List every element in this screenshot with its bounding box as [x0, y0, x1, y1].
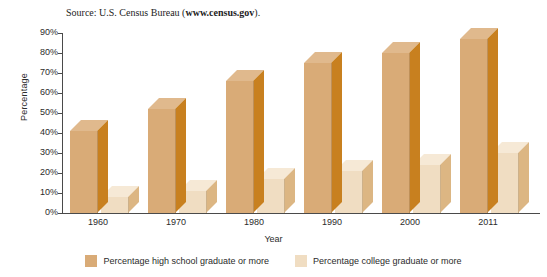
bar-face-front	[70, 131, 98, 213]
bar-face-side	[175, 98, 186, 213]
bar-highschool-1990	[304, 52, 342, 213]
x-tick-label-1960: 1960	[63, 217, 133, 227]
bar-face-front	[226, 81, 254, 213]
y-tick-mark	[58, 73, 63, 74]
bar-highschool-1970	[148, 98, 186, 213]
bar-face-side	[97, 120, 108, 213]
x-tick-label-1970: 1970	[141, 217, 211, 227]
legend-label: Percentage college graduate or more	[313, 256, 462, 266]
y-tick-mark	[58, 33, 63, 34]
bar-highschool-1960	[70, 120, 108, 213]
bar-face-front	[148, 109, 176, 213]
figure-container: Source: U.S. Census Bureau (www.census.g…	[0, 0, 547, 277]
bar-face-front	[304, 63, 332, 213]
x-tick-label-2000: 2000	[375, 217, 445, 227]
y-tick-mark	[58, 113, 63, 114]
y-tick-mark	[58, 193, 63, 194]
bar-face-front	[382, 53, 410, 213]
y-tick-mark	[58, 53, 63, 54]
y-tick-mark	[58, 213, 63, 214]
y-tick-mark	[58, 93, 63, 94]
x-tick-label-1990: 1990	[297, 217, 367, 227]
legend-swatch	[295, 255, 307, 267]
x-tick-label-1980: 1980	[219, 217, 289, 227]
x-axis-label: Year	[0, 234, 547, 244]
legend-swatch	[85, 255, 97, 267]
plot-area: Percentage 0%10%20%30%40%50%60%70%80%90%…	[0, 0, 547, 277]
chart-legend: Percentage high school graduate or moreP…	[0, 255, 547, 267]
legend-item-college: Percentage college graduate or more	[295, 255, 462, 267]
legend-label: Percentage high school graduate or more	[103, 256, 269, 266]
bar-highschool-2000	[382, 42, 420, 213]
bar-face-side	[253, 70, 264, 213]
legend-item-highschool: Percentage high school graduate or more	[85, 255, 269, 267]
bar-face-side	[409, 42, 420, 213]
bar-face-side	[518, 142, 529, 213]
bar-face-side	[331, 52, 342, 213]
y-tick-mark	[58, 153, 63, 154]
bar-highschool-2011	[460, 28, 498, 213]
y-tick-mark	[58, 173, 63, 174]
y-tick-mark	[58, 133, 63, 134]
bar-highschool-1980	[226, 70, 264, 213]
x-tick-label-2011: 2011	[453, 217, 523, 227]
bar-face-side	[487, 28, 498, 213]
bar-face-front	[460, 39, 488, 213]
